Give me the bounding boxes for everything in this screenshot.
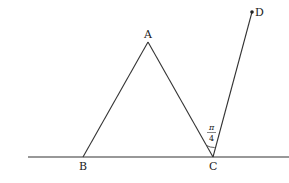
- label-D: D: [255, 6, 264, 19]
- point-D-dot: [250, 10, 254, 14]
- segment-CD: [213, 12, 252, 157]
- segment-AC: [148, 42, 213, 157]
- geometry-diagram: A B C D π 4: [0, 0, 289, 183]
- angle-numerator: π: [208, 123, 215, 132]
- label-C: C: [209, 160, 217, 173]
- segment-AB: [83, 42, 148, 157]
- label-B: B: [79, 160, 87, 173]
- label-A: A: [143, 28, 153, 41]
- angle-denominator: 4: [209, 134, 214, 143]
